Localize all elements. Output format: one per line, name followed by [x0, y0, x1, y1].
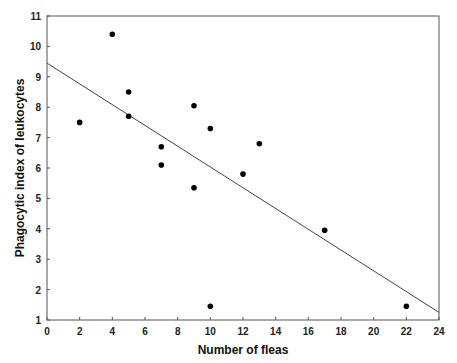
scatter-chart: 1234567891011 024681012141618202224 Numb… [0, 0, 457, 363]
x-tick-label: 20 [368, 326, 380, 337]
x-tick-label: 8 [175, 326, 181, 337]
y-tick-label: 1 [35, 315, 41, 326]
data-points [77, 31, 409, 309]
y-tick-label: 7 [35, 133, 41, 144]
data-point [159, 144, 165, 150]
y-tick-label: 11 [30, 11, 41, 22]
fit-line [47, 63, 439, 312]
data-point [77, 120, 83, 126]
y-tick-label: 6 [35, 163, 41, 174]
x-tick-label: 2 [77, 326, 83, 337]
y-tick-label: 2 [35, 285, 41, 296]
x-tick-label: 18 [335, 326, 347, 337]
x-tick-label: 10 [205, 326, 217, 337]
y-tick-label: 4 [35, 224, 41, 235]
data-point [322, 228, 328, 234]
data-point [191, 103, 197, 109]
plot-border [47, 16, 439, 320]
data-point [110, 31, 116, 37]
x-tick-label: 16 [303, 326, 315, 337]
y-tick-label: 9 [35, 72, 41, 83]
x-tick-label: 14 [270, 326, 282, 337]
x-axis-title: Number of fleas [198, 343, 289, 357]
y-tick-label: 3 [35, 254, 41, 265]
data-point [208, 126, 214, 132]
x-tick-label: 0 [44, 326, 50, 337]
y-tick-label: 10 [30, 41, 42, 52]
data-point [126, 114, 132, 120]
data-point [208, 304, 214, 310]
x-tick-label: 6 [142, 326, 148, 337]
data-point [191, 185, 197, 191]
regression-line [47, 63, 439, 312]
data-point [257, 141, 263, 147]
y-axis-title: Phagocytic index of leukocytes [13, 78, 27, 257]
x-tick-label: 24 [433, 326, 445, 337]
data-point [240, 171, 246, 177]
plot-frame [47, 16, 439, 320]
x-tick-label: 4 [110, 326, 116, 337]
x-tick-label: 22 [401, 326, 413, 337]
y-tick-label: 8 [35, 102, 41, 113]
y-tick-label: 5 [35, 193, 41, 204]
data-point [126, 89, 132, 95]
x-tick-label: 12 [237, 326, 249, 337]
data-point [404, 304, 410, 310]
data-point [159, 162, 165, 168]
